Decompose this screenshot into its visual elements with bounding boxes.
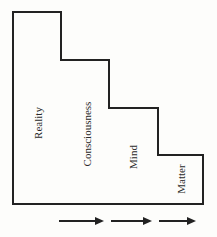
label-mind: Mind <box>127 142 139 172</box>
label-consciousness: Consciousness <box>81 99 93 169</box>
arrow-2 <box>111 217 152 225</box>
label-reality: Reality <box>32 103 44 143</box>
arrow-1 <box>59 217 104 225</box>
label-matter: Matter <box>175 159 187 199</box>
arrow-3 <box>159 217 196 225</box>
